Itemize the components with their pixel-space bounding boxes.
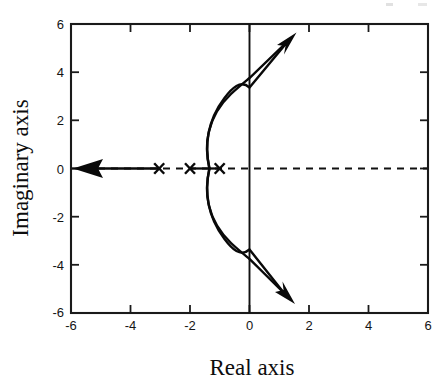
y-axis-title: Imaginary axis bbox=[8, 99, 33, 236]
x-tick-label-4: 2 bbox=[305, 318, 312, 333]
scan-artifacts bbox=[386, 3, 427, 6]
y-tick-label-3: 0 bbox=[57, 162, 64, 177]
x-axis-title: Real axis bbox=[210, 355, 295, 380]
root-locus-figure: -6 -4 -2 0 2 4 6 6 4 2 0 -2 -4 -6 Real a… bbox=[0, 0, 448, 385]
x-tick-label-0: -6 bbox=[65, 318, 77, 333]
complex-branch-upper bbox=[207, 43, 286, 169]
y-tick-label-1: -4 bbox=[52, 258, 64, 273]
y-tick-label-0: -6 bbox=[52, 305, 64, 320]
y-tick-label-5: 4 bbox=[57, 65, 64, 80]
x-tick-label-2: -2 bbox=[184, 318, 196, 333]
x-tick-label-6: 6 bbox=[424, 318, 431, 333]
x-tick-label-1: -4 bbox=[125, 318, 137, 333]
x-tick-label-3: 0 bbox=[246, 318, 253, 333]
plot-canvas: -6 -4 -2 0 2 4 6 6 4 2 0 -2 -4 -6 Real a… bbox=[0, 0, 448, 385]
y-tick-label-4: 2 bbox=[57, 113, 64, 128]
x-tick-label-5: 4 bbox=[365, 318, 372, 333]
y-tick-label-6: 6 bbox=[57, 17, 64, 32]
y-tick-label-2: -2 bbox=[52, 210, 64, 225]
complex-branch-lower bbox=[207, 169, 284, 294]
